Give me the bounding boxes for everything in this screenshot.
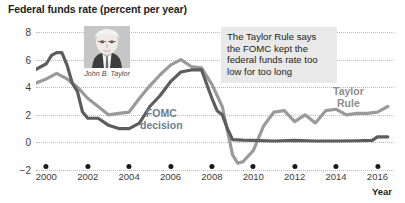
x-axis-tick: 2006 [160, 164, 181, 182]
x-axis-tick: 2004 [119, 164, 140, 182]
x-axis-tick-label: 2016 [367, 171, 388, 182]
chart-title: Federal funds rate (percent per year) [8, 3, 187, 15]
y-axis-tick-label: −2 [20, 165, 31, 176]
x-axis-tick-label: 2010 [243, 171, 264, 182]
x-axis-tick-dot [334, 164, 339, 169]
x-axis-tick-dot [85, 164, 90, 169]
x-axis-tick: 2010 [243, 164, 264, 182]
x-axis-tick: 2016 [367, 164, 388, 182]
chart-figure: Federal funds rate (percent per year) 86… [0, 0, 405, 203]
x-axis-tick-dot [251, 164, 256, 169]
taylor-rule-callout: The Taylor Rule says the FOMC kept the f… [221, 27, 337, 83]
x-axis-tick-dot [375, 164, 380, 169]
photo-caption: John B. Taylor [78, 69, 136, 78]
y-axis-tick-label: 4 [25, 82, 31, 93]
y-axis-tick-label: 6 [25, 54, 31, 65]
x-axis-tick-label: 2012 [284, 171, 305, 182]
x-axis-tick-dot [127, 164, 132, 169]
x-axis-tick-label: 2000 [36, 171, 57, 182]
x-axis-tick: 2014 [325, 164, 346, 182]
series-label-fomc-line1: FOMC [146, 107, 177, 119]
x-axis-tick-label: 2004 [119, 171, 140, 182]
series-label-taylor-line2: Rule [337, 97, 360, 109]
series-label-fomc: FOMC decision [140, 108, 183, 132]
x-axis-title: Year [372, 186, 392, 197]
x-axis-tick-dot [292, 164, 297, 169]
portrait-photo [84, 26, 130, 68]
x-axis-tick-label: 2006 [160, 171, 181, 182]
x-axis-tick: 2002 [77, 164, 98, 182]
x-axis-tick-dot [44, 164, 49, 169]
y-axis-tick-label: 0 [25, 137, 31, 148]
x-axis-tick-label: 2008 [201, 171, 222, 182]
series-label-taylor: Taylor Rule [333, 86, 364, 110]
x-axis: Year 20002002200420062008201020122014201… [36, 164, 394, 200]
x-axis-tick-dot [209, 164, 214, 169]
x-axis-tick: 2012 [284, 164, 305, 182]
y-axis-tick-label: 2 [25, 109, 31, 120]
x-axis-tick: 2000 [36, 164, 57, 182]
series-label-fomc-line2: decision [140, 119, 183, 131]
series-label-taylor-line1: Taylor [333, 85, 364, 97]
x-axis-tick: 2008 [201, 164, 222, 182]
x-axis-tick-label: 2002 [77, 171, 98, 182]
y-axis-tick-label: 8 [25, 27, 31, 38]
x-axis-tick-dot [168, 164, 173, 169]
x-axis-tick-label: 2014 [325, 171, 346, 182]
